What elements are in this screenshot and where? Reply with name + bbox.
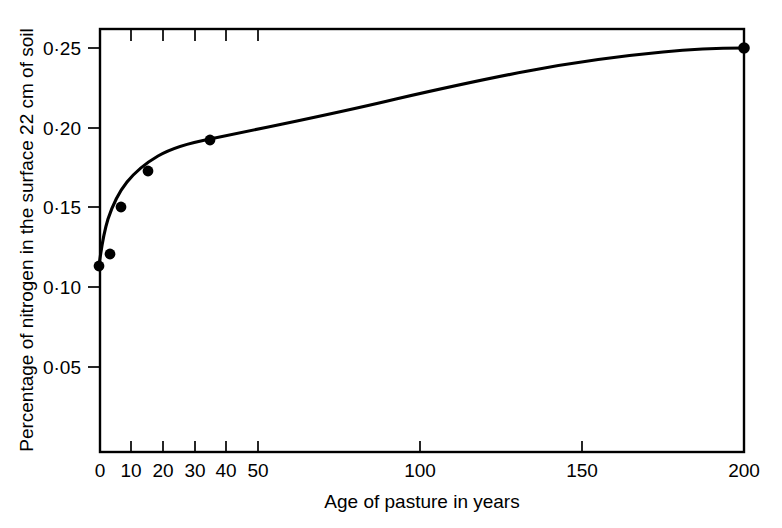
fitted-curve <box>99 48 744 266</box>
x-tick-label-150: 150 <box>566 460 598 481</box>
x-axis-title: Age of pasture in years <box>324 491 519 512</box>
x-axis-ticks <box>100 441 744 452</box>
data-point-5 <box>738 42 750 54</box>
data-point-3 <box>143 166 154 177</box>
x-tick-label-20: 20 <box>152 460 173 481</box>
y-tick-label-020: 0·20 <box>43 118 81 139</box>
y-axis-ticks <box>88 48 100 367</box>
y-axis-title: Percentage of nitrogen in the surface 22… <box>16 28 37 452</box>
data-points <box>94 42 750 271</box>
y-tick-label-025: 0·25 <box>43 38 81 59</box>
y-tick-label-015: 0·15 <box>43 197 81 218</box>
figure-container: 0 10 20 30 40 50 100 150 200 0·05 0·10 0… <box>0 0 782 528</box>
chart-canvas: 0 10 20 30 40 50 100 150 200 0·05 0·10 0… <box>0 0 782 528</box>
data-point-2 <box>116 202 127 213</box>
x-axis-top-ticks <box>131 29 258 41</box>
x-tick-label-200: 200 <box>728 460 760 481</box>
x-tick-label-10: 10 <box>120 460 141 481</box>
y-tick-label-005: 0·05 <box>43 357 81 378</box>
x-tick-label-100: 100 <box>404 460 436 481</box>
x-tick-label-0: 0 <box>95 460 106 481</box>
x-tick-label-50: 50 <box>247 460 268 481</box>
y-tick-labels: 0·05 0·10 0·15 0·20 0·25 <box>43 38 81 378</box>
x-tick-label-40: 40 <box>215 460 236 481</box>
data-point-4 <box>205 135 216 146</box>
data-point-0 <box>94 261 105 272</box>
x-tick-labels: 0 10 20 30 40 50 100 150 200 <box>95 460 760 481</box>
x-tick-label-30: 30 <box>184 460 205 481</box>
y-tick-label-010: 0·10 <box>43 277 81 298</box>
data-point-1 <box>105 249 116 260</box>
